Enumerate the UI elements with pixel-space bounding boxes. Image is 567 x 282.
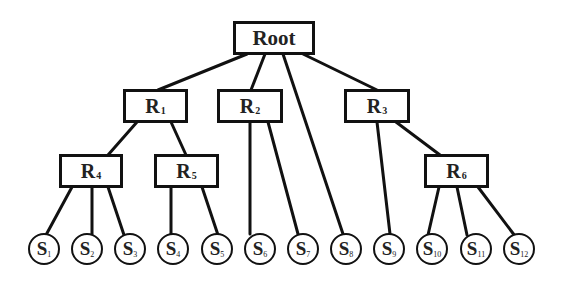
- leaf-s5: S5: [201, 233, 233, 265]
- leaf-label: S: [166, 238, 177, 260]
- node-label: R: [176, 160, 190, 183]
- leaf-subscript: 1: [47, 250, 51, 259]
- node-r3: R3: [344, 89, 410, 123]
- edge-r5-s5: [202, 187, 218, 235]
- leaf-s2: S2: [71, 233, 103, 265]
- leaf-label: S: [253, 238, 264, 260]
- edge-r3-s9: [377, 122, 390, 234]
- leaf-subscript: 7: [306, 250, 310, 259]
- edge-r6-s11: [457, 187, 467, 235]
- node-subscript: 6: [462, 170, 467, 181]
- leaf-s9: S9: [373, 233, 405, 265]
- leaf-s3: S3: [114, 233, 146, 265]
- node-subscript: 2: [255, 105, 260, 116]
- leaf-s12: S12: [503, 233, 535, 265]
- leaf-label: S: [382, 238, 393, 260]
- leaf-label: S: [37, 238, 48, 260]
- edge-r1-r4: [108, 122, 137, 155]
- node-label: R: [145, 95, 159, 118]
- leaf-label: S: [296, 238, 307, 260]
- edge-root-r2: [251, 54, 265, 90]
- node-root: Root: [233, 21, 315, 55]
- leaf-subscript: 10: [433, 250, 441, 259]
- node-label: R: [240, 95, 254, 118]
- edge-r6-s12: [478, 187, 515, 236]
- node-label: Root: [252, 26, 295, 51]
- leaf-subscript: 6: [263, 250, 267, 259]
- leaf-label: S: [467, 238, 478, 260]
- edge-r6-s10: [428, 187, 439, 235]
- node-subscript: 5: [192, 170, 197, 181]
- leaf-subscript: 9: [392, 250, 396, 259]
- edge-root-r3: [303, 54, 377, 90]
- node-r2: R2: [217, 89, 283, 123]
- node-r5: R5: [154, 154, 219, 188]
- leaf-s4: S4: [157, 233, 189, 265]
- leaf-label: S: [423, 238, 434, 260]
- edge-root-r1: [158, 54, 247, 90]
- leaf-label: S: [210, 238, 221, 260]
- node-label: R: [446, 160, 460, 183]
- node-label: R: [367, 95, 381, 118]
- node-r1: R1: [123, 89, 188, 123]
- edge-r4-s3: [108, 187, 124, 235]
- leaf-s1: S1: [28, 233, 60, 265]
- node-r4: R4: [59, 154, 123, 188]
- node-subscript: 3: [382, 105, 387, 116]
- leaf-subscript: 12: [520, 250, 528, 259]
- leaf-label: S: [123, 238, 134, 260]
- leaf-subscript: 8: [349, 250, 353, 259]
- leaf-subscript: 5: [220, 250, 224, 259]
- leaf-subscript: 11: [477, 250, 485, 259]
- leaf-s8: S8: [330, 233, 362, 265]
- leaf-s7: S7: [287, 233, 319, 265]
- node-label: R: [81, 160, 95, 183]
- node-r6: R6: [424, 154, 489, 188]
- node-subscript: 4: [96, 170, 101, 181]
- edge-r2-s7: [268, 122, 298, 234]
- leaf-label: S: [80, 238, 91, 260]
- tree-diagram: Root R1 R2 R3 R4 R5 R6 S1 S2 S3 S4 S5 S6…: [0, 0, 567, 282]
- leaf-s6: S6: [244, 233, 276, 265]
- leaf-label: S: [339, 238, 350, 260]
- node-subscript: 1: [161, 105, 166, 116]
- leaf-s10: S10: [416, 233, 448, 265]
- leaf-subscript: 3: [133, 250, 137, 259]
- edge-r3-r6: [396, 122, 440, 155]
- leaf-s11: S11: [460, 233, 492, 265]
- leaf-subscript: 4: [176, 250, 180, 259]
- edge-r1-r5: [171, 122, 186, 155]
- leaf-label: S: [510, 238, 521, 260]
- leaf-subscript: 2: [90, 250, 94, 259]
- edge-r4-s1: [46, 187, 72, 235]
